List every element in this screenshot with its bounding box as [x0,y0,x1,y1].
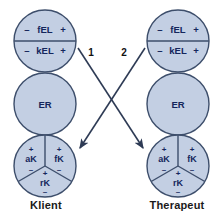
therapeut-er-label: ER [171,99,184,110]
therapeut-kel-plus: + [193,45,199,56]
klient-ak-plus: + [29,145,34,154]
therapeut-fk-minus: – [190,165,195,174]
therapeut-fel-label: fEL [170,24,186,35]
therapeut-fk-label: fK [187,154,197,164]
klient-rk-minus: – [43,187,48,196]
klient-k-circle[interactable]: + aK – + fK – + rK – [14,135,76,197]
column-label-therapeut: Therapeut [131,199,221,211]
diagram-canvas: – fEL + – kEL + ER + aK – + [0,0,221,219]
arrow-1-label: 1 [88,47,94,58]
column-klient: – fEL + – kEL + ER + aK – + [14,10,76,197]
klient-kel-plus: + [60,45,66,56]
klient-fk-minus: – [57,165,62,174]
therapeut-kel-label: kEL [169,45,187,56]
therapeut-ak-plus: + [162,145,167,154]
therapeut-rk-plus: + [176,169,181,178]
klient-fk-plus: + [57,145,62,154]
arrow-1-group[interactable]: 1 [78,47,143,148]
klient-kel-minus: – [24,45,29,56]
therapeut-rk-minus: – [176,187,181,196]
therapeut-ak-minus: – [162,165,167,174]
column-therapeut: – fEL + – kEL + ER + aK – + fK [147,10,209,197]
arrow-2-line [80,48,145,148]
therapeut-fel-minus: – [157,24,162,35]
klient-kel-label: kEL [36,45,54,56]
klient-ak-minus: – [29,165,34,174]
therapeut-er-circle[interactable]: ER [147,73,209,135]
therapeut-fel-plus: + [193,24,199,35]
arrow-2-group[interactable]: 2 [80,47,145,148]
therapeut-el-circle[interactable]: – fEL + – kEL + [147,10,209,72]
klient-rk-plus: + [43,169,48,178]
therapeut-fk-plus: + [190,145,195,154]
column-label-klient: Klient [0,199,92,211]
diagram-svg: – fEL + – kEL + ER + aK – + [0,0,221,219]
klient-fel-label: fEL [37,24,53,35]
klient-er-label: ER [38,99,51,110]
therapeut-k-circle[interactable]: + aK – + fK – + rK – [147,135,209,197]
klient-fel-minus: – [24,24,29,35]
klient-fel-plus: + [60,24,66,35]
arrow-1-line [78,48,143,148]
therapeut-kel-minus: – [157,45,162,56]
klient-er-circle[interactable]: ER [14,73,76,135]
klient-ak-label: aK [25,154,37,164]
klient-fk-label: fK [54,154,64,164]
arrow-2-label: 2 [121,47,127,58]
therapeut-ak-label: aK [158,154,170,164]
klient-el-circle[interactable]: – fEL + – kEL + [14,10,76,72]
